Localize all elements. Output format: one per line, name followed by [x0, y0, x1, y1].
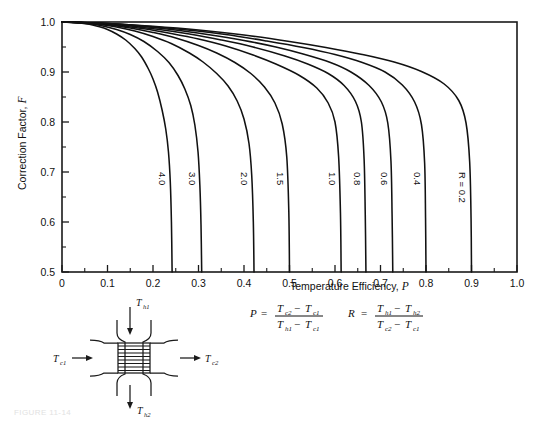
curve-R-1.5 [62, 22, 290, 272]
y-tick-label: 1.0 [40, 16, 55, 28]
stream-label-cold-out-base: T [205, 353, 212, 364]
curve-label-R-0.8: 0.8 [352, 172, 363, 185]
equation-R-lhs: R [347, 307, 355, 319]
curve-label-R-2.0: 2.0 [239, 172, 250, 185]
equation-R-num-op: − [394, 302, 400, 314]
curve-label-R-0.4: 0.4 [412, 172, 423, 185]
figure-caption-faint: FIGURE 11-14 [14, 408, 71, 417]
x-tick-label: 1.0 [510, 277, 525, 289]
curve-labels: 4.03.02.01.51.00.80.60.4R = 0.2 [157, 172, 468, 203]
curve-label-R-4.0: 4.0 [157, 172, 168, 185]
stream-label-cold-in-base: T [53, 353, 60, 364]
equation-P: P = T c2 − T c1 T h1 − T c1 [249, 302, 323, 333]
stream-label-cold-in-sub: c1 [60, 359, 66, 366]
equation-P-num-op: − [294, 302, 300, 314]
equation-R-num-t1: T [377, 302, 384, 314]
flow-arrow-cold-out [180, 355, 201, 361]
equation-P-num-t1: T [277, 302, 284, 314]
curve-label-R-0.6: 0.6 [379, 172, 390, 185]
stream-label-cold-in: T c1 [53, 353, 66, 366]
x-tick-label: 0.3 [191, 277, 206, 289]
stream-label-cold-out-sub: c2 [212, 359, 219, 366]
equation-P-den-op: − [294, 318, 300, 330]
equation-R-den-s1: c2 [385, 325, 392, 333]
equation-P-num-t2: T [305, 302, 312, 314]
curve-R-2.0 [62, 22, 254, 272]
y-axis-title: Correction Factor,F [16, 96, 28, 190]
x-tick-label: 0.4 [237, 277, 252, 289]
equation-R-den-op: − [394, 318, 400, 330]
curve-R-0.4 [62, 22, 426, 272]
equation-R-den-t2: T [405, 318, 412, 330]
y-tick-label: 0.7 [40, 166, 55, 178]
curve-R-3.0 [62, 22, 202, 272]
heat-exchanger-diagram: T h1 T c1 T c2 T h2 [53, 297, 219, 418]
flow-arrow-cold-in [72, 355, 93, 361]
stream-label-hot-out-base: T [137, 405, 144, 416]
y-tick-label: 0.8 [40, 116, 55, 128]
stream-label-hot-in-sub: h1 [143, 303, 150, 310]
equation-P-den-t1: T [277, 318, 284, 330]
curve-label-R-1.0: 1.0 [327, 172, 338, 185]
curve-R-4.0 [62, 22, 172, 272]
flow-arrow-hot-in [127, 307, 133, 335]
stream-label-hot-in-base: T [136, 297, 143, 308]
x-axis-title: Temperature Efficiency,P [290, 280, 409, 292]
equation-P-equals: = [261, 307, 267, 319]
x-tick-label: 0.2 [146, 277, 161, 289]
stream-label-hot-in: T h1 [136, 297, 150, 310]
equation-R: R = T h1 − T h2 T c2 − T c1 [347, 302, 423, 333]
equation-P-den-s2: c1 [313, 325, 320, 333]
tube-bundle-lines [118, 346, 150, 371]
equation-P-den-s1: h1 [285, 325, 292, 333]
curve-label-R-1.5: 1.5 [275, 172, 286, 185]
curve-label-R-0.2: R = 0.2 [457, 172, 468, 203]
curve-R-0.6 [62, 22, 393, 272]
x-tick-label: 0.1 [100, 277, 115, 289]
figure-page: 00.10.20.30.40.50.60.70.80.91.0 0.50.60.… [0, 0, 546, 426]
y-tick-label: 0.5 [40, 266, 55, 278]
equation-R-den-s2: c1 [413, 325, 420, 333]
equation-R-equals: = [361, 307, 367, 319]
equation-P-lhs: P [249, 307, 257, 319]
y-axis-tick-labels: 0.50.60.70.80.91.0 [40, 16, 55, 278]
x-tick-label: 0 [59, 277, 65, 289]
x-tick-label: 0.8 [419, 277, 434, 289]
svg-text:Temperature Efficiency,P: Temperature Efficiency,P [290, 280, 409, 292]
y-tick-label: 0.6 [40, 216, 55, 228]
curve-label-R-3.0: 3.0 [187, 172, 198, 185]
equation-R-den-t1: T [377, 318, 384, 330]
stream-label-hot-out: T h2 [137, 405, 151, 418]
equation-P-den-t2: T [305, 318, 312, 330]
stream-label-cold-out: T c2 [205, 353, 219, 366]
stream-label-hot-out-sub: h2 [144, 411, 151, 418]
flow-arrow-hot-out [127, 385, 133, 409]
x-tick-label: 0.9 [464, 277, 479, 289]
lmtd-correction-factor-figure: 00.10.20.30.40.50.60.70.80.91.0 0.50.60.… [0, 0, 546, 426]
data-curves [62, 22, 472, 272]
svg-text:Correction Factor,F: Correction Factor,F [16, 96, 28, 190]
y-axis-ticks [62, 22, 69, 272]
equation-R-num-t2: T [405, 302, 412, 314]
y-tick-label: 0.9 [40, 66, 55, 78]
